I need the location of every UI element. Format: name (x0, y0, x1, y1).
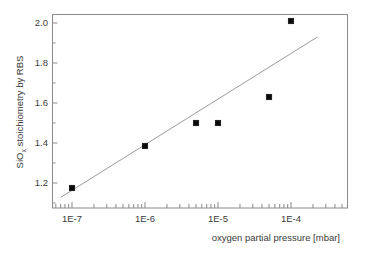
data-point-marker (193, 120, 199, 126)
y-tick-label-1.4: 1.4 (35, 137, 48, 148)
x-tick-label-1E-5: 1E-5 (208, 213, 228, 224)
data-point-group (69, 18, 294, 191)
x-axis-title: oxygen partial pressure [mbar] (212, 232, 340, 243)
plot-frame (53, 15, 348, 209)
y-axis-title: SiOx stoichiometry by RBS (14, 56, 27, 169)
x-tick-label-1E-4: 1E-4 (281, 213, 301, 224)
y-axis-title-rest: stoichiometry by RBS (14, 56, 25, 149)
scatter-plot: 2.0 1.8 1.6 1.4 1.2 1E-7 1E-6 1E-5 1E-4 … (0, 0, 365, 258)
x-tick-label-1E-7: 1E-7 (62, 213, 82, 224)
chart-figure: 2.0 1.8 1.6 1.4 1.2 1E-7 1E-6 1E-5 1E-4 … (0, 0, 365, 258)
y-tick-label-2.0: 2.0 (35, 17, 48, 28)
y-tick-label-1.8: 1.8 (35, 57, 48, 68)
data-point-marker (266, 94, 272, 100)
data-point-marker (215, 120, 221, 126)
y-tick-label-1.6: 1.6 (35, 97, 48, 108)
y-axis-title-main: SiO (14, 153, 25, 169)
x-tick-label-1E-6: 1E-6 (135, 213, 155, 224)
data-point-marker (69, 185, 75, 191)
y-tick-label-1.2: 1.2 (35, 177, 48, 188)
y-axis-ticks (53, 23, 58, 203)
svg-text:SiOx stoichiometry by RBS: SiOx stoichiometry by RBS (14, 56, 27, 169)
trend-line (61, 37, 318, 197)
x-axis-minor-ticks (56, 204, 342, 208)
data-point-marker (142, 143, 148, 149)
x-axis-major-ticks (72, 202, 291, 208)
data-point-marker (288, 18, 294, 24)
